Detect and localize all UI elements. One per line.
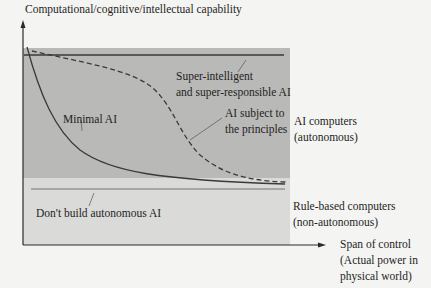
x-axis-label-2: (Actual power in: [340, 253, 418, 267]
rule-based-label-1: Rule-based computers: [293, 199, 396, 213]
x-axis-arrow-icon: [318, 243, 326, 248]
y-axis-arrow-icon: [21, 20, 26, 28]
super-intelligent-label-2: and super-responsible AI: [176, 85, 291, 99]
y-axis-label: Computational/cognitive/intellectual cap…: [25, 2, 242, 16]
dont-build-label: Don't build autonomous AI: [36, 206, 161, 220]
rule-based-label-2: (non-autonomous): [293, 215, 378, 229]
x-axis-label-3: physical world): [340, 269, 412, 283]
super-intelligent-label-1: Super-intelligent: [176, 69, 253, 83]
minimal-ai-label: Minimal AI: [63, 112, 117, 126]
x-axis-label-1: Span of control: [340, 237, 411, 251]
principles-label-2: the principles: [225, 122, 287, 136]
autonomous-label-1: AI computers: [294, 114, 357, 128]
principles-label-1: AI subject to: [225, 106, 284, 120]
autonomous-label-2: (autonomous): [294, 130, 358, 144]
